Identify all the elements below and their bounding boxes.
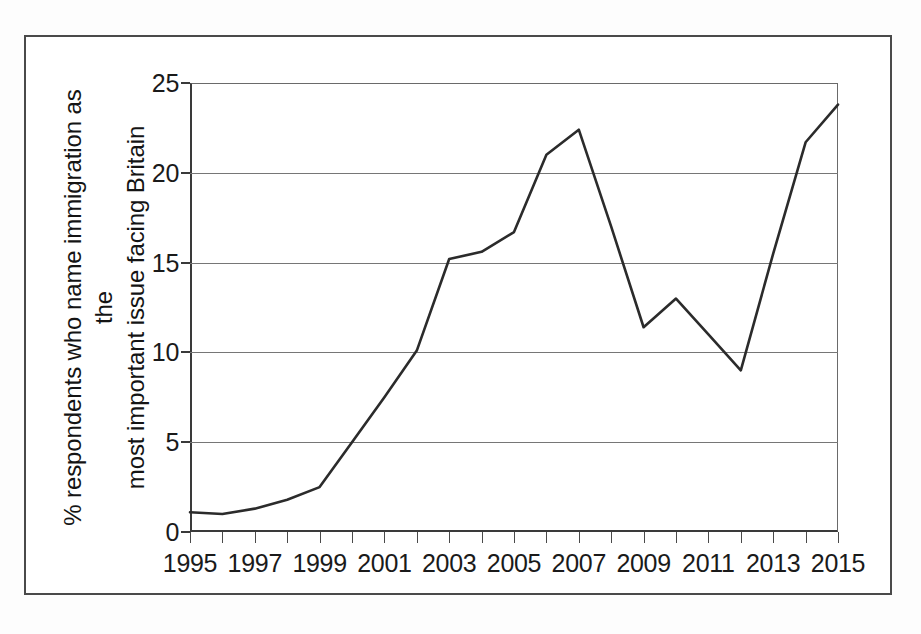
x-tick-mark-1995 (190, 532, 191, 543)
x-tick-label-1999: 1999 (292, 549, 346, 578)
x-tick-mark-1997 (255, 532, 256, 543)
y-tick-label-25: 25 (152, 69, 190, 98)
x-tick-mark-2007 (579, 532, 580, 543)
series-polyline (190, 105, 838, 514)
x-tick-mark-2013 (773, 532, 774, 543)
data-series-line (190, 83, 838, 532)
y-tick-label-5: 5 (165, 428, 190, 457)
x-tick-mark-1996 (222, 532, 223, 543)
chart-page: % respondents who name immigration as th… (0, 0, 921, 634)
y-tick-label-10: 10 (152, 338, 190, 367)
x-tick-mark-2000 (352, 532, 353, 543)
x-tick-label-2007: 2007 (552, 549, 606, 578)
x-tick-mark-2004 (482, 532, 483, 543)
x-tick-label-1995: 1995 (163, 549, 217, 578)
x-tick-label-2009: 2009 (616, 549, 670, 578)
plot-area: 0510152025 19951997199920012003200520072… (190, 83, 838, 532)
x-tick-mark-2014 (806, 532, 807, 543)
x-tick-mark-2011 (708, 532, 709, 543)
x-tick-mark-2005 (514, 532, 515, 543)
x-tick-mark-2015 (838, 532, 839, 543)
x-tick-label-2015: 2015 (811, 549, 865, 578)
x-tick-mark-2009 (644, 532, 645, 543)
x-tick-mark-2002 (417, 532, 418, 543)
y-tick-label-15: 15 (152, 248, 190, 277)
x-tick-label-2013: 2013 (746, 549, 800, 578)
x-tick-mark-1999 (320, 532, 321, 543)
x-tick-label-2003: 2003 (422, 549, 476, 578)
x-tick-mark-2010 (676, 532, 677, 543)
x-tick-label-2011: 2011 (682, 549, 735, 578)
x-tick-mark-2012 (741, 532, 742, 543)
x-tick-label-1997: 1997 (228, 549, 282, 578)
y-tick-label-20: 20 (152, 158, 190, 187)
x-tick-mark-2006 (546, 532, 547, 543)
x-tick-mark-2001 (384, 532, 385, 543)
x-tick-label-2005: 2005 (487, 549, 541, 578)
x-tick-mark-2003 (449, 532, 450, 543)
y-tick-label-0: 0 (165, 518, 190, 547)
x-tick-label-2001: 2001 (357, 549, 411, 578)
x-tick-mark-1998 (287, 532, 288, 543)
x-tick-mark-2008 (611, 532, 612, 543)
